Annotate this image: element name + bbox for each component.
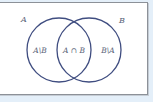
region-b-minus-a-label: B\A — [100, 46, 115, 55]
venn-diagram: A B A\B A ∩ B B\A — [0, 0, 153, 102]
region-a-intersect-b-label: A ∩ B — [62, 46, 85, 55]
set-a-label: A — [20, 15, 27, 24]
region-a-minus-b-label: A\B — [32, 46, 47, 55]
set-b-label: B — [118, 16, 125, 25]
